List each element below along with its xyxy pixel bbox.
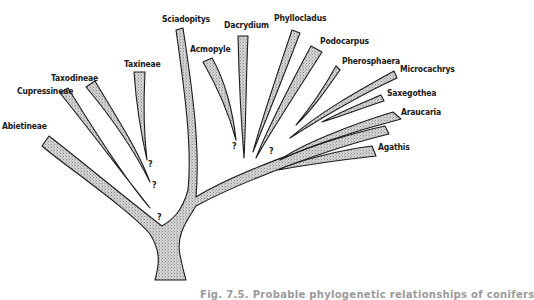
label-taxineae: Taxineae xyxy=(124,59,161,69)
label-pherosphaera: Pherosphaera xyxy=(342,56,400,66)
label-microcachrys: Microcachrys xyxy=(400,64,455,74)
branch-taxineae xyxy=(134,72,147,160)
branch-acmopyle xyxy=(203,58,236,140)
uncertain-marker-acmopyle: ? xyxy=(232,142,237,151)
label-dacrydium: Dacrydium xyxy=(224,20,269,30)
label-agathis: Agathis xyxy=(378,142,410,152)
label-abietineae: Abietineae xyxy=(2,121,47,131)
uncertain-marker-taxodineae: ? xyxy=(148,160,153,169)
uncertain-marker-pherosphaera: ? xyxy=(269,147,274,156)
uncertain-marker-abietineae: ? xyxy=(157,213,162,222)
label-sciadopitys: Sciadopitys xyxy=(162,14,210,24)
label-acmopyle: Acmopyle xyxy=(190,44,231,54)
label-taxodineae: Taxodineae xyxy=(51,73,98,83)
label-araucaria: Araucaria xyxy=(401,107,441,117)
label-saxegothea: Saxegothea xyxy=(387,88,436,98)
figure-caption: Fig. 7.5. Probable phylogenetic relation… xyxy=(200,289,534,300)
label-cupressineae: Cupressineae xyxy=(17,86,73,96)
label-phyllocladus: Phyllocladus xyxy=(274,13,326,23)
uncertain-marker-cupressineae: ? xyxy=(152,181,157,190)
branch-dacrydium xyxy=(238,36,248,158)
label-podocarpus: Podocarpus xyxy=(320,36,369,46)
